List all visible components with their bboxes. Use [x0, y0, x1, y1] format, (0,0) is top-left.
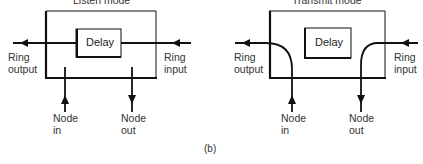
- ring-output-label: Ring output: [8, 51, 37, 75]
- arrow-up-icon: [61, 95, 69, 104]
- ring-output-label: Ring output: [234, 51, 263, 75]
- arrow-down-icon: [357, 95, 365, 104]
- label-line: output: [8, 63, 37, 75]
- label-line: out: [349, 124, 374, 136]
- arrow-left-icon: [172, 39, 180, 47]
- label-line: input: [164, 63, 187, 75]
- label-line: in: [281, 124, 306, 136]
- arrow-left-icon: [401, 39, 409, 47]
- label-line: Node: [121, 112, 146, 124]
- label-line: Node: [281, 112, 306, 124]
- arrow-left-icon: [20, 39, 28, 47]
- listen-mode-title: Listen mode: [73, 0, 130, 6]
- figure-caption: (b): [204, 143, 216, 154]
- arrow-down-icon: [128, 95, 136, 104]
- label-line: Ring: [234, 51, 263, 63]
- ring-interface-diagram: [0, 0, 423, 164]
- label-line: input: [394, 63, 417, 75]
- node-in-label: Node in: [53, 112, 78, 136]
- ring-input-label: Ring input: [394, 51, 417, 75]
- delay-label: Delay: [86, 36, 114, 48]
- label-line: Ring: [8, 51, 37, 63]
- node-out-label: Node out: [349, 112, 374, 136]
- label-line: Node: [349, 112, 374, 124]
- arrow-left-icon: [242, 39, 250, 47]
- transmit-mode-title: Transmit mode: [292, 0, 362, 6]
- node-in-label: Node in: [281, 112, 306, 136]
- ring-input-label: Ring input: [164, 51, 187, 75]
- delay-label: Delay: [315, 36, 343, 48]
- label-line: output: [234, 63, 263, 75]
- arrow-up-icon: [288, 95, 296, 104]
- node-out-label: Node out: [121, 112, 146, 136]
- label-line: Ring: [394, 51, 417, 63]
- label-line: Node: [53, 112, 78, 124]
- transmit-arrows: [242, 39, 409, 104]
- label-line: in: [53, 124, 78, 136]
- label-line: out: [121, 124, 146, 136]
- label-line: Ring: [164, 51, 187, 63]
